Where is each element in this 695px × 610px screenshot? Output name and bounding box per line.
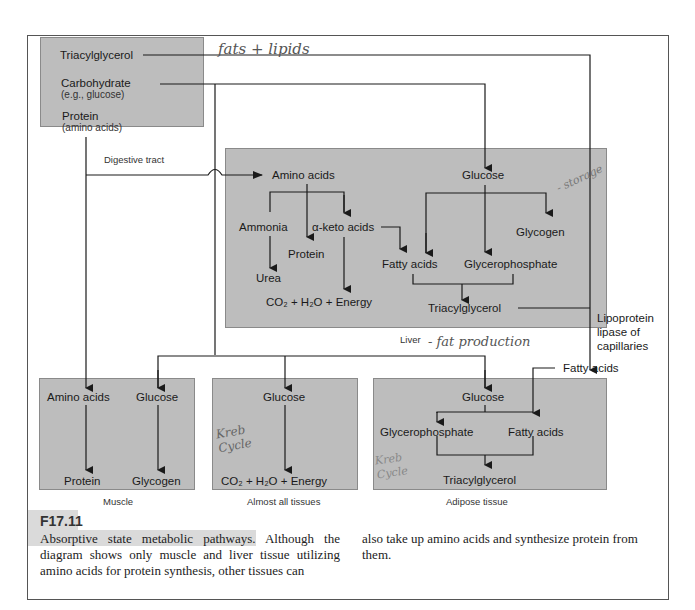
tissues-label: Almost all tissues xyxy=(247,496,320,507)
digestive-tract-label: Digestive tract xyxy=(104,154,164,165)
fatty-acids-transport: Fatty acids xyxy=(563,362,619,374)
adipose-glucose: Glucose xyxy=(462,391,504,403)
liver-label: Liver xyxy=(400,334,421,345)
liver-amino-acids: Amino acids xyxy=(272,169,335,181)
caption-left: Absorptive state metabolic pathways. Alt… xyxy=(40,531,340,579)
lipoprotein-lipase-label: Lipoprotein lipase of capillaries xyxy=(597,311,654,353)
liver-glycerophosphate: Glycerophosphate xyxy=(464,258,557,270)
liver-co2-energy: CO₂ + H₂O + Energy xyxy=(266,296,372,308)
figure-number: F17.11 xyxy=(40,513,83,529)
muscle-protein: Protein xyxy=(64,475,100,487)
digestive-triacylglycerol: Triacylglycerol xyxy=(60,49,133,61)
handwritten-fat-production: - fat production xyxy=(428,334,530,349)
adipose-label: Adipose tissue xyxy=(446,496,508,507)
tissues-co2-energy: CO₂ + H₂O + Energy xyxy=(221,475,327,487)
liver-glucose: Glucose xyxy=(462,169,504,181)
liver-protein: Protein xyxy=(288,248,324,260)
liver-urea: Urea xyxy=(256,272,281,284)
adipose-glycerophosphate: Glycerophosphate xyxy=(380,426,473,438)
digestive-carbohydrate: Carbohydrate xyxy=(61,77,131,89)
liver-keto-acids: α-keto acids xyxy=(312,221,374,233)
liver-glycogen: Glycogen xyxy=(516,226,565,238)
muscle-amino-acids: Amino acids xyxy=(47,391,110,403)
caption-right: also take up amino acids and synthesize … xyxy=(362,531,660,563)
digestive-protein: Protein xyxy=(62,110,98,122)
tissues-glucose: Glucose xyxy=(263,391,305,403)
adipose-triacylglycerol: Triacylglycerol xyxy=(443,474,516,486)
liver-ammonia: Ammonia xyxy=(239,221,288,233)
adipose-fatty-acids: Fatty acids xyxy=(508,426,564,438)
muscle-glucose: Glucose xyxy=(136,391,178,403)
handwritten-fats-lipids: fats + lipids xyxy=(218,40,310,58)
liver-triacylglycerol: Triacylglycerol xyxy=(428,302,501,314)
digestive-protein-sub: (amino acids) xyxy=(62,122,122,133)
muscle-glycogen: Glycogen xyxy=(132,475,181,487)
muscle-label: Muscle xyxy=(103,496,133,507)
liver-fatty-acids: Fatty acids xyxy=(382,258,438,270)
digestive-carbohydrate-sub: (e.g., glucose) xyxy=(61,89,124,100)
handwritten-krebs-adipose: Kreb Cycle xyxy=(374,450,414,483)
